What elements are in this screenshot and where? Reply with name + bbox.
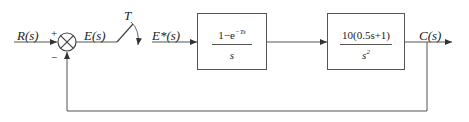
zoh-denominator: s [198, 49, 266, 61]
summing-junction-icon [58, 33, 76, 51]
zero-order-hold-block: 1−e−Ts s [197, 13, 267, 70]
sampler-switch-icon [117, 22, 138, 45]
plant-fraction-bar [340, 44, 392, 45]
zoh-numerator: 1−e−Ts [198, 29, 266, 41]
minus-sign: − [51, 52, 57, 63]
sampled-error-label: E*(s) [152, 29, 180, 42]
zoh-fraction-bar [212, 44, 252, 45]
sampling-period-label: T [124, 9, 131, 22]
plant-block: 10(0.5s+1) s2 [327, 13, 405, 70]
input-label: R(s) [17, 29, 39, 42]
block-diagram: R(s) + − E(s) T E*(s) 1−e−Ts s 10(0.5s+1… [0, 0, 469, 122]
output-label: C(s) [419, 29, 441, 42]
plus-sign: + [51, 28, 57, 39]
error-label: E(s) [84, 29, 106, 42]
plant-numerator: 10(0.5s+1) [328, 29, 404, 41]
plant-denominator: s2 [328, 49, 404, 61]
